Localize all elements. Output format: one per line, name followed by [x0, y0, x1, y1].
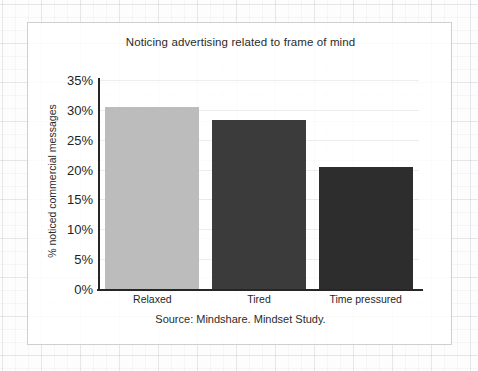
- bar-series: [99, 80, 419, 289]
- y-axis-tick-label: 35%: [67, 73, 93, 88]
- plot-area: 0%5%10%15%20%25%30%35% RelaxedTiredTime …: [99, 80, 419, 289]
- bar-time-pressured: [319, 167, 413, 289]
- source-note: Source: Mindshare. Mindset Study.: [28, 313, 453, 325]
- y-axis-tick-label: 5%: [74, 252, 93, 267]
- x-axis-tick-label: Time pressured: [312, 293, 419, 305]
- chart-title: Noticing advertising related to frame of…: [28, 36, 453, 48]
- y-axis-tick-label: 0%: [74, 282, 93, 297]
- y-axis-tick-label: 25%: [67, 132, 93, 147]
- x-axis-line: [97, 289, 423, 291]
- y-axis-tick-label: 15%: [67, 192, 93, 207]
- x-axis-tick-label: Relaxed: [99, 293, 206, 305]
- y-axis-tick-label: 20%: [67, 162, 93, 177]
- y-axis-title: % noticed commercial messages: [46, 91, 58, 271]
- y-axis-tick-label: 10%: [67, 222, 93, 237]
- y-axis-tick-label: 30%: [67, 102, 93, 117]
- chart-figure-card: Noticing advertising related to frame of…: [27, 22, 452, 345]
- bar-relaxed: [105, 107, 199, 289]
- x-axis-tick-label: Tired: [206, 293, 313, 305]
- bar-tired: [212, 120, 306, 289]
